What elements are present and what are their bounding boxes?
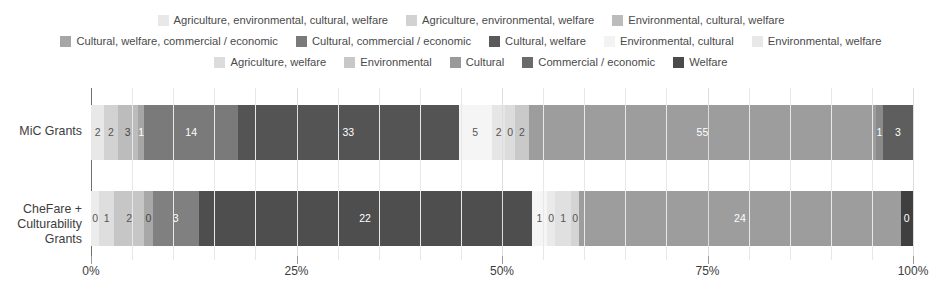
legend-item[interactable]: Cultural bbox=[450, 57, 505, 68]
x-axis-tick-label: 50% bbox=[490, 264, 514, 278]
bar-segment[interactable]: 0 bbox=[901, 191, 913, 246]
bar-segment[interactable]: 0 bbox=[505, 105, 515, 160]
x-axis-tick-label: 100% bbox=[898, 264, 929, 278]
bar-segment-value: 2 bbox=[496, 127, 502, 138]
bar-segment[interactable]: 22 bbox=[199, 191, 532, 246]
bar-segment-value: 2 bbox=[95, 127, 101, 138]
grid-line bbox=[708, 88, 709, 260]
plot-area: 2231143352025513 01203221010240 bbox=[91, 88, 913, 260]
bar-segment-value: 5 bbox=[472, 127, 478, 138]
bar-segment-value: 0 bbox=[572, 213, 578, 224]
legend-item[interactable]: Environmental bbox=[344, 57, 432, 68]
legend-item[interactable]: Agriculture, welfare bbox=[214, 57, 326, 68]
legend-item[interactable]: Cultural, commercial / economic bbox=[296, 36, 471, 47]
legend-swatch-icon bbox=[214, 57, 225, 68]
bar-segment[interactable]: 5 bbox=[459, 105, 492, 160]
bar-segment-value: 1 bbox=[536, 213, 542, 224]
bar-segment-value: 0 bbox=[904, 213, 910, 224]
bar-segment[interactable]: 1 bbox=[876, 105, 883, 160]
legend-row: Agriculture, welfareEnvironmentalCultura… bbox=[0, 52, 942, 73]
legend-item[interactable]: Commercial / economic bbox=[522, 57, 655, 68]
legend-item-label: Agriculture, welfare bbox=[230, 57, 326, 68]
bar-segment[interactable]: 0 bbox=[91, 191, 99, 246]
legend-item[interactable]: Agriculture, environmental, cultural, we… bbox=[158, 15, 389, 26]
bar-segment[interactable]: 1 bbox=[99, 191, 114, 246]
grid-line bbox=[831, 88, 832, 260]
bar-segment-value: 3 bbox=[125, 127, 131, 138]
x-axis-tickmark bbox=[297, 256, 298, 264]
legend-item[interactable]: Cultural, welfare, commercial / economic bbox=[60, 36, 277, 47]
grid-line bbox=[132, 88, 133, 260]
bar-segment[interactable]: 14 bbox=[144, 105, 238, 160]
bar-segment[interactable]: 55 bbox=[529, 105, 877, 160]
legend-item-label: Environmental, cultural, welfare bbox=[628, 15, 784, 26]
legend-item-label: Cultural, commercial / economic bbox=[312, 36, 471, 47]
bar-segment[interactable]: 2 bbox=[492, 105, 505, 160]
legend-item-label: Agriculture, environmental, cultural, we… bbox=[174, 15, 389, 26]
bar-segment[interactable]: 1 bbox=[138, 105, 145, 160]
bar-segment[interactable]: 2 bbox=[91, 105, 104, 160]
grid-line bbox=[297, 88, 298, 260]
grid-line bbox=[255, 88, 256, 260]
grid-line bbox=[625, 88, 626, 260]
legend-swatch-icon bbox=[344, 57, 355, 68]
bar-segment[interactable]: 0 bbox=[571, 191, 579, 246]
bar-segment-value: 2 bbox=[519, 127, 525, 138]
legend-swatch-icon bbox=[489, 36, 500, 47]
stacked-bar-chart: Agriculture, environmental, cultural, we… bbox=[0, 0, 942, 306]
y-axis-label-mic-grants: MiC Grants bbox=[0, 124, 82, 139]
bar-segment-value: 14 bbox=[185, 127, 197, 138]
bar-segment[interactable]: 0 bbox=[144, 191, 152, 246]
bar-segment[interactable]: 2 bbox=[114, 191, 144, 246]
y-axis-label-chefare-culturability-grants: CheFare +CulturabilityGrants bbox=[0, 202, 82, 247]
bar-segment[interactable]: 3 bbox=[883, 105, 913, 160]
bar-segment[interactable]: 0 bbox=[547, 191, 555, 246]
bar-segment-value: 2 bbox=[108, 127, 114, 138]
bar-segment[interactable]: 2 bbox=[515, 105, 528, 160]
bar-segment-value: 3 bbox=[895, 127, 901, 138]
legend-swatch-icon bbox=[158, 15, 169, 26]
bar-segment-value: 1 bbox=[560, 213, 566, 224]
legend-item[interactable]: Environmental, welfare bbox=[752, 36, 882, 47]
legend-item[interactable]: Agriculture, environmental, welfare bbox=[406, 15, 594, 26]
legend-item[interactable]: Cultural, welfare bbox=[489, 36, 586, 47]
grid-line bbox=[214, 88, 215, 260]
bar-segment-value: 0 bbox=[146, 213, 152, 224]
legend-item-label: Cultural bbox=[466, 57, 505, 68]
bar-segment[interactable]: 3 bbox=[118, 105, 138, 160]
legend-item[interactable]: Environmental, cultural, welfare bbox=[612, 15, 784, 26]
grid-line bbox=[420, 88, 421, 260]
legend-item[interactable]: Environmental, cultural bbox=[604, 36, 734, 47]
grid-line bbox=[502, 88, 503, 260]
bar-segment[interactable]: 1 bbox=[555, 191, 571, 246]
legend-item-label: Agriculture, environmental, welfare bbox=[422, 15, 594, 26]
grid-line bbox=[790, 88, 791, 260]
x-axis-labels: 0%25%50%75%100% bbox=[91, 264, 913, 288]
legend-item[interactable]: Welfare bbox=[673, 57, 727, 68]
grid-line bbox=[913, 88, 914, 260]
legend-swatch-icon bbox=[604, 36, 615, 47]
x-axis-tick-label: 0% bbox=[82, 264, 99, 278]
legend-swatch-icon bbox=[752, 36, 763, 47]
chart-legend: Agriculture, environmental, cultural, we… bbox=[0, 10, 942, 73]
legend-item-label: Welfare bbox=[689, 57, 727, 68]
bar-segment[interactable]: 2 bbox=[104, 105, 117, 160]
legend-swatch-icon bbox=[522, 57, 533, 68]
bar-segment[interactable]: 33 bbox=[238, 105, 459, 160]
bar-segment-value: 55 bbox=[697, 127, 709, 138]
x-axis-tickmark bbox=[708, 256, 709, 264]
bar-segment[interactable]: 24 bbox=[579, 191, 900, 246]
legend-item-label: Environmental bbox=[360, 57, 432, 68]
x-axis-tick-label: 25% bbox=[284, 264, 308, 278]
grid-line bbox=[379, 88, 380, 260]
legend-item-label: Cultural, welfare, commercial / economic bbox=[76, 36, 277, 47]
bar-segment-value: 0 bbox=[507, 127, 513, 138]
legend-row: Cultural, welfare, commercial / economic… bbox=[0, 31, 942, 52]
grid-line bbox=[461, 88, 462, 260]
bar-segment-value: 1 bbox=[104, 213, 110, 224]
grid-line bbox=[584, 88, 585, 260]
legend-item-label: Environmental, cultural bbox=[620, 36, 734, 47]
bar-segment-value: 0 bbox=[92, 213, 98, 224]
bar-segment[interactable]: 1 bbox=[532, 191, 548, 246]
bar-segment[interactable]: 3 bbox=[153, 191, 199, 246]
